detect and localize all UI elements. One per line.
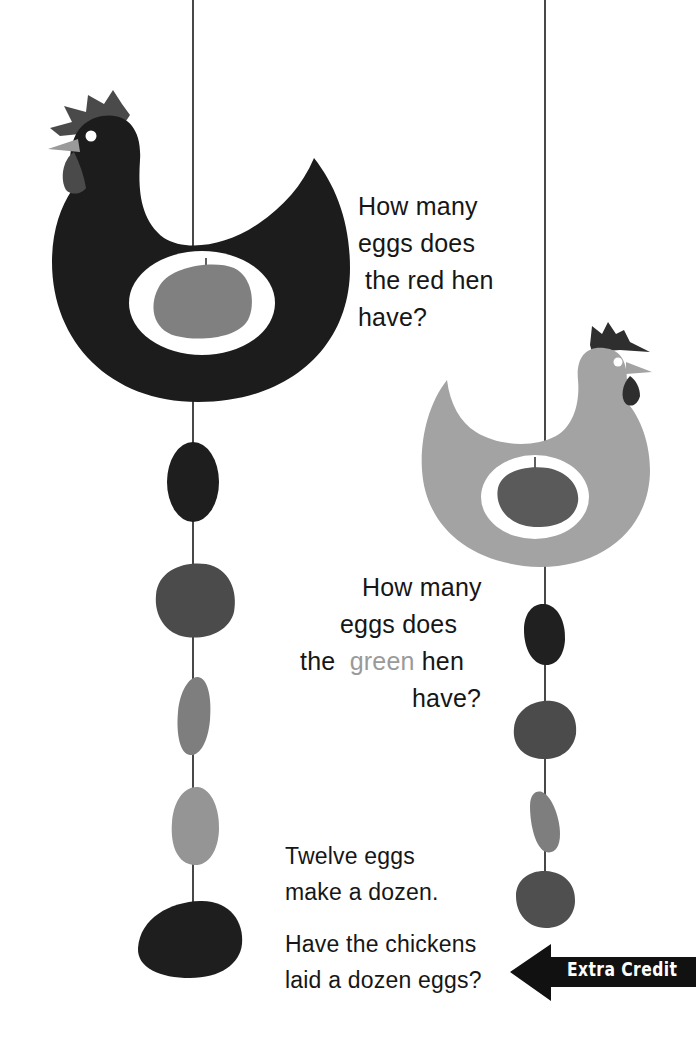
red-hen-egg-string (138, 442, 242, 978)
egg (514, 701, 576, 759)
egg (530, 792, 560, 853)
green-hen-comb-icon (590, 322, 650, 352)
dozen-prompt: Twelve eggs make a dozen. Have the chick… (285, 838, 482, 998)
red-hen-beak-icon (48, 139, 80, 152)
egg (172, 787, 219, 865)
prompt-line: Twelve eggs (285, 838, 482, 874)
question-line: have? (358, 299, 494, 336)
prompt-line: Have the chickens (285, 926, 482, 962)
egg (524, 604, 565, 665)
green-hen-belly-egg (497, 467, 578, 527)
green-hen-beak-icon (626, 362, 652, 374)
question-word: the (300, 647, 335, 675)
green-hen-eye-icon (614, 358, 623, 367)
question-line: How many (300, 569, 482, 606)
question-line: How many (358, 188, 494, 225)
red-hen-eye-icon (86, 131, 97, 142)
question-line: eggs does (358, 225, 494, 262)
question-line: the red hen (358, 262, 494, 299)
question-line: the green hen (300, 643, 482, 680)
egg (516, 871, 575, 928)
green-hen (422, 322, 652, 567)
prompt-line: make a dozen. (285, 874, 482, 910)
green-hen-question: How many eggs does the green hen have? (300, 569, 482, 717)
egg (138, 901, 242, 978)
highlighted-color-word: green (350, 647, 415, 675)
egg (178, 677, 211, 755)
egg (167, 442, 219, 522)
red-hen-question: How many eggs does the red hen have? (358, 188, 494, 336)
question-line: have? (300, 680, 482, 717)
question-word: hen (422, 647, 464, 675)
egg (156, 563, 235, 637)
red-hen (48, 90, 350, 402)
extra-credit-label[interactable]: Extra Credit (567, 958, 673, 980)
question-line: eggs does (300, 606, 482, 643)
prompt-line: laid a dozen eggs? (285, 962, 482, 998)
